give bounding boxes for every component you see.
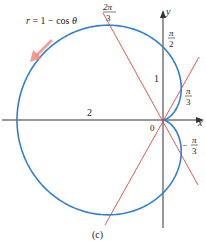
direction-arrow-icon bbox=[30, 40, 52, 62]
svg-text:3: 3 bbox=[186, 97, 191, 107]
svg-text:π: π bbox=[169, 28, 174, 38]
y-axis-label: y bbox=[165, 6, 171, 17]
svg-text:π: π bbox=[186, 86, 191, 96]
angle-label-pi2: π 2 bbox=[168, 28, 175, 49]
x-axis-label: x bbox=[197, 117, 203, 128]
origin-label: 0 bbox=[150, 123, 155, 133]
svg-text:3: 3 bbox=[106, 13, 111, 23]
svg-text:π: π bbox=[192, 135, 197, 145]
tangent-line-2pi3 bbox=[103, 13, 198, 185]
svg-text:2π: 2π bbox=[103, 2, 113, 12]
x-tick-label-2: 2 bbox=[87, 107, 92, 118]
angle-label-neg-pi3: − π 3 bbox=[182, 135, 198, 156]
equation-label: r = 1 − cos θ bbox=[26, 15, 77, 26]
svg-text:2: 2 bbox=[169, 39, 174, 49]
figure-caption: (c) bbox=[92, 229, 103, 241]
svg-text:−: − bbox=[182, 140, 187, 150]
svg-text:3: 3 bbox=[192, 146, 197, 156]
y-tick-label-1: 1 bbox=[154, 73, 159, 84]
angle-label-pi3: π 3 bbox=[185, 86, 192, 107]
cardioid-diagram: r = 1 − cos θ y x 0 2 1 2π 3 π 2 π 3 − π… bbox=[0, 0, 206, 241]
angle-label-2pi3: 2π 3 bbox=[103, 2, 116, 23]
